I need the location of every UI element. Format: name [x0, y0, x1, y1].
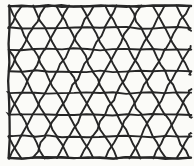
triangular-lattice-figure [0, 0, 194, 166]
paper-background [0, 0, 194, 166]
drawing-canvas [0, 0, 194, 166]
